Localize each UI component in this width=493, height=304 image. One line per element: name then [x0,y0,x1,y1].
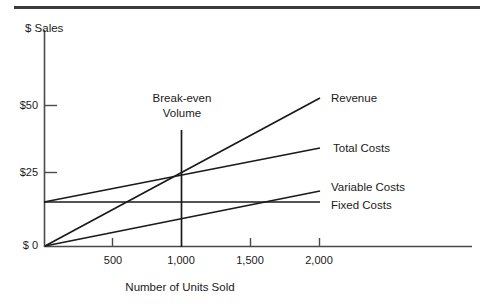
x-tick-label-2000: 2,000 [289,254,349,267]
series-label-variable-costs: Variable Costs [331,181,405,194]
break-even-annotation-line2: Volume [122,106,242,121]
y-tick-label-50: $50 [2,99,38,112]
series-label-total-costs: Total Costs [333,142,390,155]
series-line-variable-costs [45,191,320,246]
x-tick-label-1500: 1,500 [220,254,280,267]
series-label-fixed-costs: Fixed Costs [331,199,392,212]
series-label-revenue: Revenue [331,92,377,105]
x-axis-title: Number of Units Sold [0,281,360,294]
break-even-annotation: Break-even Volume [122,91,242,121]
y-tick-label-0: $ 0 [2,239,38,252]
break-even-chart: $ Sales Number of Units Sold $50 $25 $ 0… [0,0,493,304]
y-tick-label-25: $25 [2,166,38,179]
x-tick-label-1000: 1,000 [151,254,211,267]
y-axis-title: $ Sales [25,22,63,35]
x-tick-label-500: 500 [83,254,143,267]
break-even-annotation-line1: Break-even [122,91,242,106]
